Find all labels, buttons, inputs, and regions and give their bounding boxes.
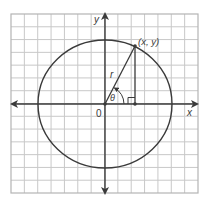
origin-label: 0 [96,108,102,119]
diagram-canvas: y x 0 (x, y) r θ [0,0,210,203]
circle-diagram: y x 0 (x, y) r θ [0,0,210,203]
foot-point [133,102,137,106]
point-on-circle [133,44,137,48]
y-axis-label: y [93,14,100,25]
origin-point [103,102,107,106]
x-axis-label: x [186,107,193,118]
point-label: (x, y) [138,36,159,47]
angle-label: θ [110,93,115,103]
